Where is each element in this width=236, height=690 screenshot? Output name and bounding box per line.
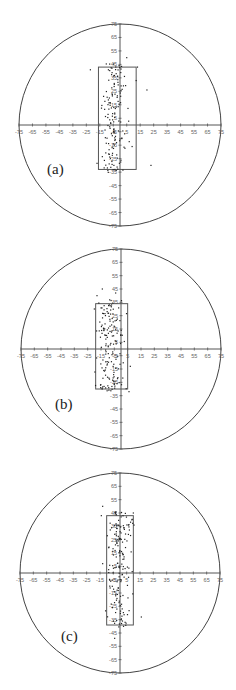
x-tick-label: 25 xyxy=(150,577,156,583)
y-tick-label: -5 xyxy=(112,577,117,583)
x-tick-label: 55 xyxy=(191,353,197,359)
y-tick-label: -35 xyxy=(110,393,118,399)
data-points xyxy=(90,57,152,173)
y-tick-label: 75 xyxy=(111,21,117,27)
x-tick-label: -15 xyxy=(96,577,104,583)
panel-label-c: (c) xyxy=(61,628,78,645)
y-tick-label: -45 xyxy=(110,406,118,412)
y-tick-label: -45 xyxy=(109,630,117,636)
x-tick-label: -55 xyxy=(44,353,52,359)
x-tick-label: 45 xyxy=(178,353,184,359)
y-tick-label: -75 xyxy=(109,670,117,676)
y-tick-label: 65 xyxy=(112,259,118,265)
x-tick-label: 65 xyxy=(204,129,210,135)
panel-a: -75-65-55-45-35-25-15-551525354555657575… xyxy=(0,0,236,230)
scatter-plot-c: -75-65-55-45-35-25-15-551525354555657575… xyxy=(0,448,236,678)
x-tick-label: -15 xyxy=(97,353,105,359)
x-tick-label: -65 xyxy=(28,129,36,135)
y-tick-label: -65 xyxy=(110,433,118,439)
x-tick-label: 25 xyxy=(151,129,157,135)
y-tick-label: -15 xyxy=(110,366,118,372)
x-tick-label: 15 xyxy=(137,577,143,583)
panel-b: -75-65-55-45-35-25-15-551525354555657575… xyxy=(0,224,236,454)
x-tick-label: 65 xyxy=(205,353,211,359)
x-tick-label: 5 xyxy=(125,129,128,135)
x-tick-label: 25 xyxy=(151,353,157,359)
y-tick-label: 65 xyxy=(111,483,117,489)
panel-label-a: (a) xyxy=(47,161,64,178)
scatter-plot-a: -75-65-55-45-35-25-15-551525354555657575… xyxy=(0,0,236,230)
y-tick-label: 55 xyxy=(112,273,118,279)
y-tick-label: -65 xyxy=(109,210,117,216)
x-tick-label: 75 xyxy=(218,129,224,135)
y-tick-label: -55 xyxy=(109,643,117,649)
y-tick-label: -15 xyxy=(109,590,117,596)
x-tick-label: 65 xyxy=(204,577,210,583)
x-tick-label: -65 xyxy=(30,353,38,359)
y-tick-label: -65 xyxy=(109,657,117,663)
x-tick-label: 15 xyxy=(138,353,144,359)
x-tick-label: -55 xyxy=(42,129,50,135)
x-tick-label: -35 xyxy=(69,577,77,583)
selection-rectangle xyxy=(98,67,136,169)
x-tick-label: 35 xyxy=(164,129,170,135)
y-tick-label: 5 xyxy=(114,563,117,569)
y-tick-label: -45 xyxy=(109,183,117,189)
x-tick-label: 5 xyxy=(125,577,128,583)
x-tick-label: 45 xyxy=(178,129,184,135)
y-tick-label: -55 xyxy=(110,419,118,425)
y-tick-label: 75 xyxy=(111,470,117,476)
y-tick-label: 5 xyxy=(114,115,117,121)
x-tick-label: 35 xyxy=(164,577,170,583)
y-tick-label: 75 xyxy=(112,246,118,252)
scatter-plot-b: -75-65-55-45-35-25-15-551525354555657575… xyxy=(0,224,236,454)
y-tick-label: 45 xyxy=(112,286,118,292)
y-tick-label: 35 xyxy=(112,299,118,305)
y-tick-label: -15 xyxy=(109,142,117,148)
x-tick-label: -35 xyxy=(69,129,77,135)
x-tick-label: 75 xyxy=(217,577,223,583)
panel-c: -75-65-55-45-35-25-15-551525354555657575… xyxy=(0,448,236,678)
x-tick-label: -65 xyxy=(29,577,37,583)
x-tick-label: 35 xyxy=(165,353,171,359)
x-tick-label: -75 xyxy=(15,129,23,135)
y-tick-label: -55 xyxy=(109,196,117,202)
x-tick-label: -55 xyxy=(43,577,51,583)
x-tick-label: -45 xyxy=(55,129,63,135)
y-tick-label: 55 xyxy=(111,48,117,54)
x-tick-label: -25 xyxy=(82,129,90,135)
x-tick-label: -25 xyxy=(84,353,92,359)
x-tick-label: -25 xyxy=(83,577,91,583)
panel-label-b: (b) xyxy=(55,396,73,413)
x-tick-label: 55 xyxy=(190,577,196,583)
x-tick-label: 55 xyxy=(191,129,197,135)
x-tick-label: -45 xyxy=(57,353,65,359)
x-tick-label: 45 xyxy=(177,577,183,583)
y-tick-label: 65 xyxy=(111,34,117,40)
x-tick-label: -35 xyxy=(70,353,78,359)
y-tick-label: 55 xyxy=(111,497,117,503)
y-tick-label: -25 xyxy=(109,603,117,609)
x-tick-label: -15 xyxy=(96,129,104,135)
x-tick-label: -75 xyxy=(17,353,25,359)
x-tick-label: 15 xyxy=(137,129,143,135)
x-tick-label: -75 xyxy=(16,577,24,583)
x-tick-label: 75 xyxy=(218,353,224,359)
x-tick-label: -45 xyxy=(56,577,64,583)
